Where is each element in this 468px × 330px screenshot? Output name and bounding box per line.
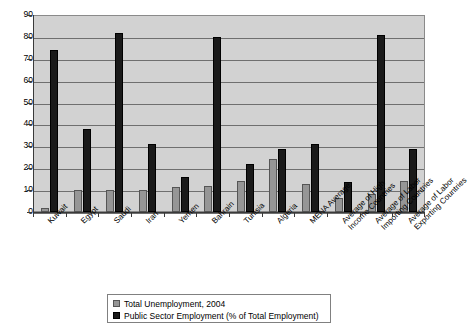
legend-swatch-icon-black — [113, 312, 120, 319]
x-axis-tick-mark — [229, 212, 230, 217]
y-axis-tick-mark — [27, 146, 32, 147]
y-axis-tick-mark — [27, 81, 32, 82]
chart-legend: Total Unemployment, 2004 Public Sector E… — [107, 294, 331, 323]
y-axis-tick-mark — [27, 212, 32, 213]
legend-item-total-unemployment: Total Unemployment, 2004 — [113, 298, 325, 309]
bar-unemployment — [74, 190, 82, 212]
legend-label: Total Unemployment, 2004 — [124, 299, 225, 309]
legend-label: Public Sector Employment (% of Total Emp… — [124, 311, 318, 321]
x-axis-tick-mark — [131, 212, 132, 217]
bar-public-sector — [311, 144, 319, 212]
x-axis-tick-mark — [360, 212, 361, 217]
y-axis-tick-mark — [27, 190, 32, 191]
y-axis-tick-mark — [27, 37, 32, 38]
x-axis-tick-mark — [66, 212, 67, 217]
legend-swatch-icon-gray — [113, 300, 120, 307]
x-axis-tick-mark — [424, 212, 425, 217]
x-axis-tick-mark — [327, 212, 328, 217]
x-axis-tick-mark — [262, 212, 263, 217]
x-axis-tick-mark — [164, 212, 165, 217]
bar-unemployment — [172, 187, 180, 212]
bar-unemployment — [237, 181, 245, 212]
y-axis-tick-mark — [27, 103, 32, 104]
y-axis-tick-mark — [27, 124, 32, 125]
y-axis-line — [33, 15, 34, 213]
x-axis-tick-mark — [294, 212, 295, 217]
bar-unemployment — [106, 190, 114, 212]
y-axis-tick-mark — [27, 59, 32, 60]
bar-public-sector — [246, 164, 254, 212]
x-axis-tick-mark — [33, 212, 34, 217]
legend-item-public-sector-employment: Public Sector Employment (% of Total Emp… — [113, 310, 325, 321]
bar-unemployment — [302, 184, 310, 212]
bar-public-sector — [148, 144, 156, 212]
bar-public-sector — [278, 149, 286, 212]
y-axis-tick-mark — [27, 168, 32, 169]
bar-public-sector — [50, 50, 58, 212]
bar-public-sector — [83, 129, 91, 212]
x-axis-tick-mark — [98, 212, 99, 217]
y-axis: 9080706050403020100 — [0, 0, 33, 330]
bar-unemployment — [269, 159, 277, 212]
bar-public-sector — [213, 37, 221, 212]
bar-unemployment — [139, 190, 147, 212]
x-axis-tick-mark — [196, 212, 197, 217]
x-axis-tick-label: Iran — [144, 209, 160, 225]
bar-public-sector — [115, 33, 123, 212]
bars-layer — [33, 15, 425, 212]
x-axis-tick-mark — [392, 212, 393, 217]
y-axis-tick-mark — [27, 15, 32, 16]
bar-unemployment — [204, 186, 212, 212]
